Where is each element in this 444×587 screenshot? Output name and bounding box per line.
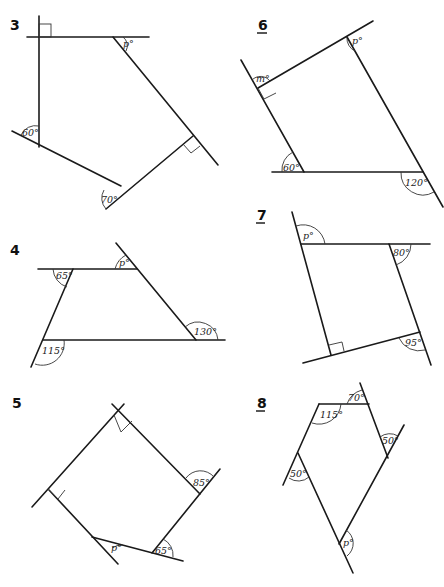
- line-upper-right: [112, 404, 200, 494]
- angle-label-p: p°: [111, 542, 122, 553]
- angle-label-50-right: 50°: [382, 435, 399, 446]
- line-left: [241, 60, 304, 172]
- problem-number-4: 4: [10, 242, 20, 258]
- figure-4: 4 65° p° 130° 115°: [10, 242, 225, 367]
- problem-number-5: 5: [12, 395, 22, 411]
- angle-label-70: 70°: [348, 392, 365, 403]
- angle-label-p: p°: [123, 38, 134, 49]
- angle-label-p: p°: [119, 257, 130, 268]
- right-angle-marker: [329, 342, 344, 351]
- figure-7: 7 p° 80° 95°: [256, 207, 431, 365]
- problem-number-6: 6: [258, 17, 268, 33]
- line-top: [258, 21, 373, 88]
- angle-label-65: 65°: [56, 270, 73, 281]
- angle-label-60: 60°: [283, 162, 300, 173]
- right-angle-marker: [39, 24, 51, 37]
- problem-number-8: 8: [257, 395, 267, 411]
- angle-label-85: 85°: [193, 477, 210, 488]
- line-upper-left: [32, 404, 124, 507]
- angle-label-115: 115°: [320, 409, 343, 420]
- angle-label-115: 115°: [42, 345, 65, 356]
- angle-label-50-left: 50°: [290, 468, 307, 479]
- angle-label-p: p°: [343, 537, 354, 548]
- problem-number-3: 3: [10, 17, 20, 33]
- problem-number-7: 7: [257, 207, 267, 223]
- line-right: [347, 37, 443, 207]
- angle-label-130: 130°: [194, 326, 217, 337]
- line-lower-left: [49, 490, 118, 564]
- figure-6: 6 m° p° 60° 120°: [241, 17, 443, 207]
- right-angle-marker: [49, 490, 65, 499]
- angle-label-65: 65°: [155, 545, 172, 556]
- right-angle-marker: [258, 88, 276, 99]
- line-bottom: [303, 332, 420, 363]
- angle-label-80: 80°: [393, 247, 410, 258]
- angle-label-120: 120°: [405, 177, 428, 188]
- line-bottom-left: [12, 131, 121, 186]
- figure-5: 5 85° p° 65°: [12, 395, 220, 564]
- angle-label-70: 70°: [101, 194, 118, 205]
- angle-label-m: m°: [256, 73, 270, 84]
- right-angle-marker: [183, 144, 200, 153]
- angle-label-60: 60°: [22, 127, 39, 138]
- geometry-worksheet: 3 p° 60° 70° 6 m° p° 60° 120° 4: [0, 0, 444, 587]
- angle-label-p: p°: [352, 35, 363, 46]
- line-right-diagonal: [113, 37, 218, 165]
- line-bottom-right: [106, 136, 193, 209]
- angle-label-95: 95°: [405, 337, 422, 348]
- figure-8: 8 115° 70° 50° 50° p°: [256, 383, 404, 573]
- angle-label-p: p°: [303, 230, 314, 241]
- right-angle-marker: [114, 415, 132, 432]
- figure-3: 3 p° 60° 70°: [10, 16, 218, 209]
